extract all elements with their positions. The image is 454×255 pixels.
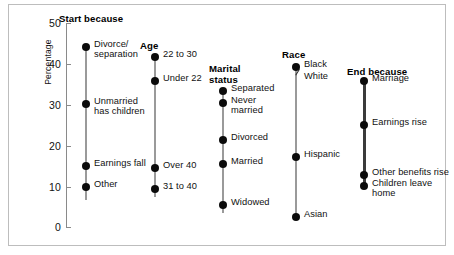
- y-tick-label-20: 20: [35, 140, 61, 152]
- data-point: [360, 77, 368, 85]
- data-point: [151, 77, 159, 85]
- group-spine-start-because: [85, 47, 87, 200]
- data-point-label: 31 to 40: [163, 181, 197, 191]
- group-title-start-because: Start because: [59, 14, 123, 25]
- group-title-marital-status: Marital: [209, 64, 241, 75]
- y-tick-30: [66, 105, 71, 106]
- data-point: [151, 53, 159, 61]
- data-point-label: 22 to 30: [163, 49, 197, 59]
- data-point: [82, 183, 90, 191]
- group-spine-marital-status: [222, 91, 224, 213]
- data-point-label: Widowed: [231, 197, 270, 207]
- data-point-label: Other benefits rise: [372, 167, 449, 177]
- data-point-label: Divorced: [231, 132, 268, 142]
- data-point-label: Black: [304, 59, 327, 69]
- data-point-label: Children leave: [372, 178, 432, 188]
- chart-frame: Percentage 50 40 30 20 10 0 Start becaus…: [8, 4, 446, 246]
- y-axis-line: [66, 23, 67, 228]
- group-title-race: Race: [282, 50, 305, 61]
- data-point: [219, 87, 227, 95]
- data-point-label: Unmarried: [94, 96, 138, 106]
- data-point: [360, 121, 368, 129]
- data-point-label: Separated: [231, 83, 274, 93]
- data-point-label: Divorce/: [94, 39, 129, 49]
- y-tick-label-0: 0: [35, 221, 61, 233]
- data-point-label: Earnings rise: [372, 117, 427, 127]
- y-tick-20: [66, 146, 71, 147]
- data-point: [219, 99, 227, 107]
- data-point-label: Hispanic: [304, 149, 340, 159]
- data-point: [219, 136, 227, 144]
- data-point-label: Over 40: [163, 160, 196, 170]
- data-point-label: Never: [231, 95, 256, 105]
- data-point: [219, 201, 227, 209]
- data-point: [151, 185, 159, 193]
- data-point-label: White: [304, 71, 328, 81]
- y-tick-label-50: 50: [35, 17, 61, 29]
- group-title-age: Age: [140, 41, 158, 52]
- y-tick-label-30: 30: [35, 99, 61, 111]
- data-point-label: Married: [231, 156, 263, 166]
- data-point-label-line2: has children: [94, 106, 145, 116]
- y-tick-40: [66, 64, 71, 65]
- data-point: [360, 171, 368, 179]
- data-point: [82, 162, 90, 170]
- data-point: [219, 160, 227, 168]
- y-tick-10: [66, 187, 71, 188]
- data-point: [82, 100, 90, 108]
- y-tick-0: [66, 227, 71, 228]
- data-point: [292, 213, 300, 221]
- data-point-label-line2: home: [372, 188, 395, 198]
- data-point: [360, 182, 368, 190]
- y-tick-label-10: 10: [35, 181, 61, 193]
- data-point-label: Other: [94, 179, 118, 189]
- group-spine-race: [295, 67, 297, 217]
- chart-figure: Percentage 50 40 30 20 10 0 Start becaus…: [0, 0, 454, 255]
- data-point-label-line2: separation: [94, 49, 138, 59]
- data-point-label: Asian: [304, 209, 328, 219]
- data-point-label: Under 22: [163, 73, 202, 83]
- data-point: [292, 153, 300, 161]
- data-point: [82, 43, 90, 51]
- data-point: [151, 164, 159, 172]
- data-point-label-line2: married: [231, 105, 263, 115]
- y-tick-label-40: 40: [35, 58, 61, 70]
- data-point-label: Earnings fall: [94, 158, 146, 168]
- data-point-label: Marriage: [372, 73, 409, 83]
